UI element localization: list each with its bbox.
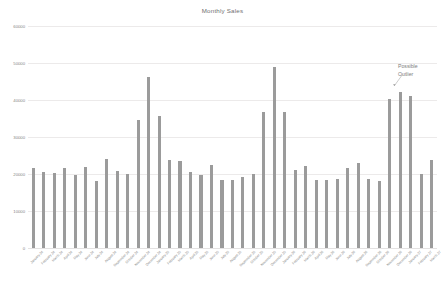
- bar[interactable]: [252, 174, 255, 248]
- x-label-slot: August 24: [101, 249, 111, 287]
- chart-title: Monthly Sales: [0, 7, 445, 14]
- x-label-slot: October 26: [374, 249, 384, 287]
- bar-series: [28, 26, 437, 248]
- bar[interactable]: [388, 99, 391, 248]
- bar[interactable]: [315, 180, 318, 248]
- bar[interactable]: [210, 165, 213, 248]
- x-label-slot: November 26: [384, 249, 394, 287]
- bar[interactable]: [273, 67, 276, 248]
- bar[interactable]: [95, 181, 98, 248]
- bar[interactable]: [241, 177, 244, 248]
- bar[interactable]: [42, 172, 45, 248]
- x-label-slot: September 24: [112, 249, 122, 287]
- bar[interactable]: [74, 175, 77, 248]
- x-label-slot: April 24: [59, 249, 69, 287]
- x-label-slot: March 24: [49, 249, 59, 287]
- bar[interactable]: [137, 120, 140, 248]
- bar-slot: [133, 26, 143, 248]
- bar[interactable]: [220, 180, 223, 248]
- bar[interactable]: [294, 170, 297, 248]
- x-label-slot: May 24: [70, 249, 80, 287]
- bar-slot: [122, 26, 132, 248]
- bar-slot: [217, 26, 227, 248]
- bar-slot: [343, 26, 353, 248]
- bar-slot: [426, 26, 436, 248]
- bar[interactable]: [168, 160, 171, 248]
- bar[interactable]: [147, 77, 150, 248]
- y-axis-tick-label: 50000: [13, 60, 25, 65]
- x-label-slot: July 25: [217, 249, 227, 287]
- bar-slot: [384, 26, 394, 248]
- bar-slot: [290, 26, 300, 248]
- x-label-slot: January 27: [405, 249, 415, 287]
- x-label-slot: September 26: [364, 249, 374, 287]
- x-label-slot: July 24: [91, 249, 101, 287]
- bar-slot: [185, 26, 195, 248]
- bar-slot: [101, 26, 111, 248]
- bar-slot: [80, 26, 90, 248]
- bar[interactable]: [357, 163, 360, 248]
- y-axis-tick-label: 0: [23, 246, 25, 251]
- bar-slot: [395, 26, 405, 248]
- bar-slot: [353, 26, 363, 248]
- bar[interactable]: [84, 167, 87, 248]
- chart-root: Monthly Sales 60000500004000030000200001…: [0, 0, 445, 287]
- bar-slot: [112, 26, 122, 248]
- bar[interactable]: [304, 166, 307, 249]
- bar[interactable]: [53, 173, 56, 248]
- plot-area: 6000050000400003000020000100000: [28, 26, 437, 248]
- bar[interactable]: [336, 179, 339, 248]
- bar-slot: [164, 26, 174, 248]
- bar-slot: [259, 26, 269, 248]
- x-label-slot: May 26: [322, 249, 332, 287]
- x-label-slot: March 25: [175, 249, 185, 287]
- bar[interactable]: [283, 112, 286, 248]
- bar[interactable]: [262, 112, 265, 248]
- bar-slot: [175, 26, 185, 248]
- bar[interactable]: [231, 180, 234, 248]
- x-label-slot: November 25: [259, 249, 269, 287]
- bar[interactable]: [158, 116, 161, 248]
- x-label-slot: August 26: [353, 249, 363, 287]
- outlier-annotation-line1: Possible: [398, 63, 418, 71]
- bar[interactable]: [399, 92, 402, 248]
- bar[interactable]: [105, 159, 108, 248]
- bar[interactable]: [420, 174, 423, 248]
- x-label-slot: December 24: [143, 249, 153, 287]
- bar-slot: [248, 26, 258, 248]
- bar-slot: [70, 26, 80, 248]
- bar[interactable]: [199, 175, 202, 248]
- x-label-slot: January 26: [280, 249, 290, 287]
- bar[interactable]: [189, 172, 192, 248]
- x-label-slot: May 25: [196, 249, 206, 287]
- bar[interactable]: [116, 171, 119, 248]
- bar-slot: [143, 26, 153, 248]
- bar-slot: [238, 26, 248, 248]
- bar-slot: [28, 26, 38, 248]
- bar[interactable]: [63, 168, 66, 248]
- bar[interactable]: [378, 181, 381, 248]
- x-label-slot: March 26: [301, 249, 311, 287]
- bar[interactable]: [32, 168, 35, 248]
- y-axis-tick-label: 30000: [13, 135, 25, 140]
- x-label-slot: April 26: [311, 249, 321, 287]
- bar-slot: [49, 26, 59, 248]
- bar-slot: [91, 26, 101, 248]
- bar[interactable]: [367, 179, 370, 248]
- bar[interactable]: [126, 174, 129, 248]
- x-label-slot: February 27: [416, 249, 426, 287]
- x-label-slot: January 25: [154, 249, 164, 287]
- x-label-slot: February 24: [38, 249, 48, 287]
- y-axis-tick-label: 60000: [13, 24, 25, 29]
- x-label-slot: January 24: [28, 249, 38, 287]
- bar[interactable]: [430, 160, 433, 248]
- bar[interactable]: [325, 180, 328, 248]
- x-label-slot: March 27: [426, 249, 436, 287]
- y-axis-tick-label: 10000: [13, 209, 25, 214]
- bar[interactable]: [409, 96, 412, 248]
- x-label-slot: December 26: [395, 249, 405, 287]
- bar[interactable]: [346, 168, 349, 248]
- x-label-slot: February 25: [164, 249, 174, 287]
- bar-slot: [206, 26, 216, 248]
- bar[interactable]: [178, 161, 181, 248]
